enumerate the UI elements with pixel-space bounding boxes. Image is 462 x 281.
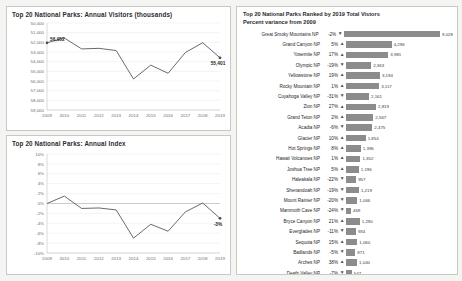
visitor-value: 2,161 [369, 94, 382, 99]
svg-text:56,952: 56,952 [50, 37, 65, 42]
svg-text:-4%: -4% [36, 221, 44, 226]
visitor-bar-cell: 3,981 [346, 51, 453, 58]
table-row[interactable]: Haleakala NP-22%▼957 [241, 174, 453, 184]
park-name: Yellowstone NP [241, 73, 323, 78]
percent-variance: 19% [323, 73, 338, 78]
visitor-bar-cell: 1,854 [346, 135, 453, 142]
table-row[interactable]: Grand Teton NP2%▲2,567 [241, 112, 453, 122]
table-row[interactable]: Hot Springs NP8%▲1,396 [241, 143, 453, 153]
table-row[interactable]: Glacier NP10%▲1,854 [241, 133, 453, 143]
svg-text:-8%: -8% [36, 241, 44, 246]
park-name: Hawaii Volcanoes NP [241, 156, 323, 161]
park-name: Badlands NP [241, 250, 323, 255]
dashboard-root: Top 20 National Parks: Annual Visitors (… [0, 0, 462, 281]
table-row[interactable]: Sequoia NP15%▲1,060 [241, 237, 453, 247]
arrow-up-icon: ▲ [338, 219, 346, 224]
svg-text:51,000: 51,000 [31, 30, 45, 35]
visitor-bar [346, 41, 392, 48]
visitor-value: 957 [356, 177, 365, 182]
table-row[interactable]: Bryce Canyon NP21%▲1,290 [241, 216, 453, 226]
percent-variance: -31% [323, 94, 338, 99]
svg-text:4%: 4% [38, 181, 44, 186]
svg-text:6%: 6% [38, 171, 44, 176]
visitor-bar-cell: 1,219 [346, 187, 453, 194]
park-name: Yosemite NP [241, 52, 323, 57]
visitor-value: 1,352 [360, 156, 373, 161]
visitor-bar [346, 72, 380, 79]
table-row[interactable]: Acadia NP-6%▼2,475 [241, 123, 453, 133]
visitor-bar-cell: 4,296 [346, 41, 453, 48]
visitor-value: 1,290 [360, 219, 373, 224]
table-row[interactable]: Mount Rainier NP-20%▼1,066 [241, 195, 453, 205]
percent-variance: -2% [321, 32, 336, 37]
arrow-up-icon: ▲ [338, 260, 346, 265]
visitor-value: 3,117 [379, 84, 392, 89]
svg-text:-3%: -3% [214, 222, 223, 227]
table-row[interactable]: Badlands NP-5%▼871 [241, 247, 453, 257]
table-row[interactable]: Olympic NP-19%▼2,363 [241, 60, 453, 70]
visitor-bar [346, 176, 356, 183]
park-name: Grand Canyon NP [241, 42, 323, 47]
visitor-value: 1,066 [357, 198, 370, 203]
visitor-value: 4,296 [392, 42, 405, 47]
table-row[interactable]: Arches NP38%▲1,040 [241, 258, 453, 268]
table-row[interactable]: Everglades NP-11%▼934 [241, 226, 453, 236]
ranked-parks-header: Top 20 National Parks Ranked by 2019 Tot… [237, 7, 457, 28]
visitor-bar-cell: 3,117 [346, 83, 453, 90]
visitor-bar [346, 124, 372, 131]
visitor-bar [346, 249, 355, 256]
table-row[interactable]: Shenandoah NP-19%▼1,219 [241, 185, 453, 195]
visitor-bar [344, 31, 440, 38]
svg-text:54,000: 54,000 [31, 59, 45, 64]
svg-text:8%: 8% [38, 162, 44, 167]
visitor-bar [346, 228, 356, 235]
arrow-up-icon: ▲ [338, 146, 346, 151]
arrow-down-icon: ▼ [338, 94, 346, 99]
visitor-bar [346, 52, 388, 59]
park-name: Everglades NP [241, 229, 323, 234]
visitor-bar [346, 114, 373, 121]
table-row[interactable]: Cuyahoga Valley NP-31%▼2,161 [241, 91, 453, 101]
visitor-bar [346, 218, 360, 225]
park-name: Shenandoah NP [241, 188, 323, 193]
table-row[interactable]: Mammoth Cave NP-24%▼469 [241, 206, 453, 216]
svg-text:-2%: -2% [36, 211, 44, 216]
arrow-up-icon: ▲ [338, 240, 346, 245]
table-row[interactable]: Hawaii Volcanoes NP1%▲1,352 [241, 154, 453, 164]
arrow-down-icon: ▼ [338, 63, 346, 68]
park-name: Rocky Mountain NP [241, 84, 323, 89]
arrow-down-icon: ▼ [338, 188, 346, 193]
svg-text:2013: 2013 [111, 256, 121, 261]
table-row[interactable]: Yellowstone NP19%▲3,194 [241, 71, 453, 81]
table-row[interactable]: Yosemite NP17%▲3,981 [241, 50, 453, 60]
svg-text:2017: 2017 [181, 256, 191, 261]
visitor-bar-cell: 2,161 [346, 93, 453, 100]
visitor-value: 934 [356, 229, 365, 234]
percent-variance: -20% [323, 198, 338, 203]
visitor-bar-cell: 3,194 [346, 72, 453, 79]
park-name: Sequoia NP [241, 240, 323, 245]
visitor-value: 3,194 [380, 73, 393, 78]
svg-text:55,000: 55,000 [31, 69, 45, 74]
table-row[interactable]: Rocky Mountain NP1%▲3,117 [241, 81, 453, 91]
arrow-up-icon: ▲ [338, 42, 346, 47]
percent-variance: 5% [323, 167, 338, 172]
visitor-bar-cell: 9,028 [344, 31, 453, 38]
visitor-bar-cell: 1,066 [346, 197, 453, 204]
table-row[interactable]: Joshua Tree NP5%▲1,196 [241, 164, 453, 174]
visitor-value: 2,475 [372, 125, 385, 130]
park-name: Olympic NP [241, 63, 323, 68]
arrow-down-icon: ▼ [338, 250, 346, 255]
table-row[interactable]: Death Valley NP-7%▼547 [241, 268, 453, 275]
table-row[interactable]: Zion NP27%▲2,819 [241, 102, 453, 112]
visitor-value: 1,196 [359, 167, 372, 172]
percent-variance: 15% [323, 240, 338, 245]
visitor-bar [346, 135, 366, 142]
visitor-value: 871 [355, 250, 364, 255]
visitor-value: 1,219 [359, 188, 372, 193]
svg-text:2010: 2010 [59, 113, 69, 118]
table-row[interactable]: Grand Canyon NP5%▲4,296 [241, 39, 453, 49]
table-row[interactable]: Great Smoky Mountains NP-2%▼9,028 [241, 29, 453, 39]
visitor-value: 2,819 [376, 104, 389, 109]
svg-text:2019: 2019 [215, 113, 225, 118]
